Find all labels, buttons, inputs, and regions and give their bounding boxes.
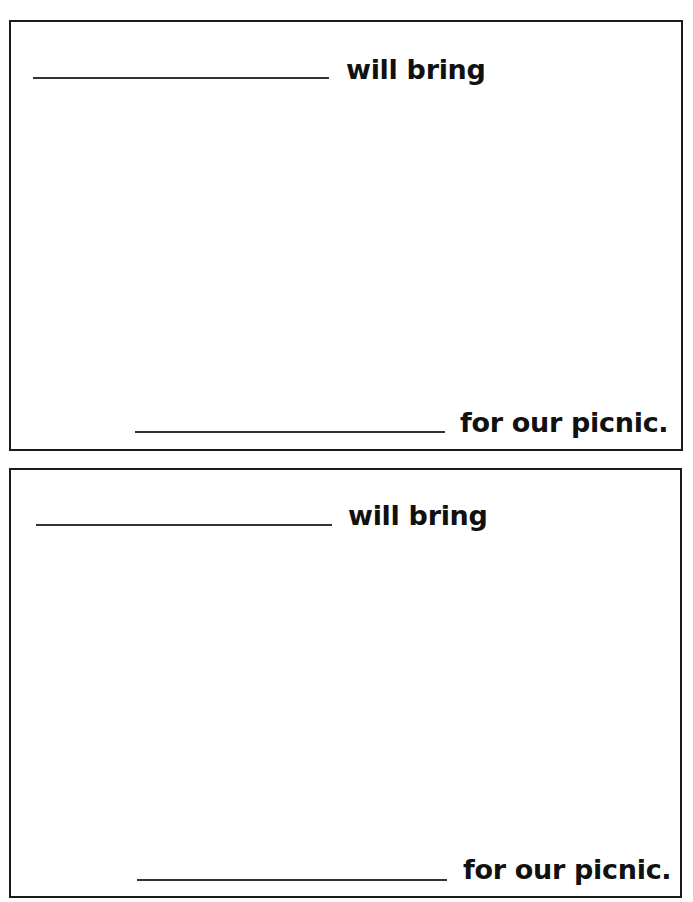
for-our-picnic-text: for our picnic. [460, 409, 668, 436]
item-blank-line[interactable] [135, 431, 445, 433]
for-our-picnic-text: for our picnic. [463, 856, 671, 883]
will-bring-text: will bring [346, 56, 486, 83]
name-blank-line[interactable] [33, 77, 329, 79]
picnic-card-2: will bring for our picnic. [9, 468, 682, 898]
picnic-card-1: will bring for our picnic. [9, 20, 683, 451]
name-blank-line[interactable] [36, 524, 332, 526]
item-blank-line[interactable] [137, 879, 447, 881]
will-bring-text: will bring [348, 502, 488, 529]
